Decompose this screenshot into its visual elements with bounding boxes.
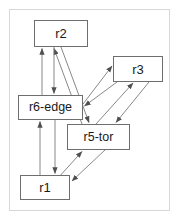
node-r5-tor-label: r5-tor (84, 131, 114, 144)
diagram-canvas: r2 r3 r6-edge r5-tor r1 (0, 0, 180, 221)
edge-r6edge-to-r3 (80, 66, 112, 108)
edge-r3-to-r5tor (116, 82, 149, 123)
edge-r5tor-to-r1 (72, 150, 105, 181)
node-r1[interactable]: r1 (20, 175, 70, 200)
edge-r5tor-to-r3 (96, 83, 133, 124)
node-r2-label: r2 (55, 27, 67, 40)
node-r6-edge-label: r6-edge (29, 101, 72, 114)
node-r2[interactable]: r2 (34, 20, 88, 47)
node-r5-tor[interactable]: r5-tor (67, 124, 130, 150)
node-r1-label: r1 (39, 181, 51, 194)
node-r3-label: r3 (132, 63, 144, 76)
node-r3[interactable]: r3 (113, 56, 163, 82)
node-r6-edge[interactable]: r6-edge (18, 95, 83, 120)
edge-r3-to-r6edge (85, 82, 118, 106)
